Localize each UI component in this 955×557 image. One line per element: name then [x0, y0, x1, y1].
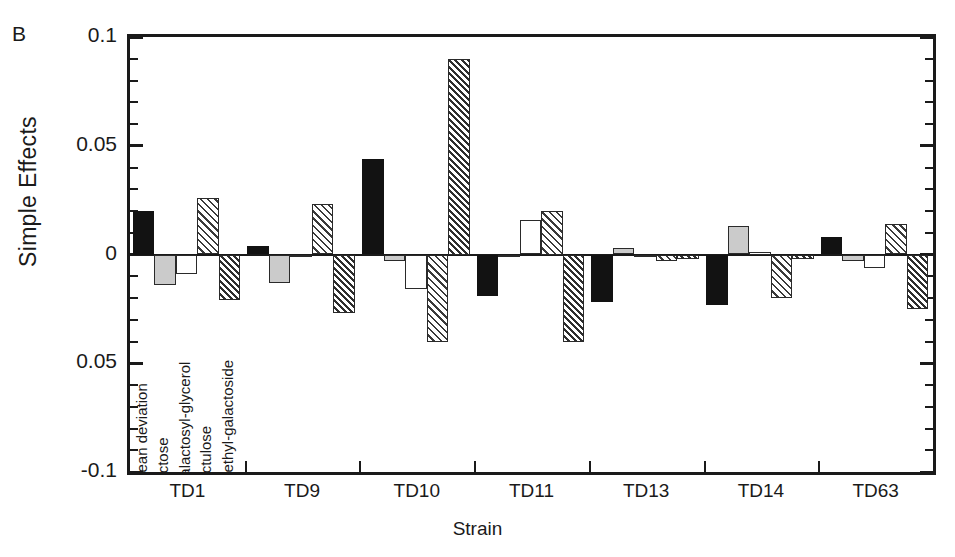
legend-label-mean-deviation: mean deviation — [133, 383, 150, 472]
y-tick-right — [925, 406, 933, 408]
y-tick-left — [130, 80, 138, 82]
bar-td11-lactose — [498, 255, 520, 257]
y-tick-left — [130, 297, 138, 299]
bar-td1-methyl-galactoside — [219, 255, 241, 301]
x-tick-label-td11: TD11 — [509, 480, 554, 502]
bar-td13-galactosyl-glycerol — [634, 255, 656, 257]
panel-letter: B — [12, 22, 26, 46]
bar-td11-galactosyl-glycerol — [520, 220, 542, 255]
bar-td1-lactulose — [197, 198, 219, 255]
x-tick-label-td10: TD10 — [394, 480, 440, 502]
bar-td10-galactosyl-glycerol — [405, 255, 427, 290]
bar-td14-galactosyl-glycerol — [749, 252, 771, 254]
y-tick-label: 0.05 — [76, 349, 117, 373]
y-tick-right — [925, 384, 933, 386]
y-tick-label: 0.1 — [88, 23, 117, 47]
bar-td63-lactulose — [885, 224, 907, 254]
y-tick-left — [130, 188, 138, 190]
y-tick-right — [925, 167, 933, 169]
y-tick-left — [130, 319, 138, 321]
y-tick-right — [925, 449, 933, 451]
bar-td63-galactosyl-glycerol — [864, 255, 886, 268]
y-tick-left — [130, 362, 143, 365]
y-tick-left — [130, 101, 138, 103]
chart-root: B Simple Effects mean deviationlactosega… — [0, 0, 955, 557]
bar-td13-methyl-galactoside — [677, 255, 699, 259]
bar-td14-lactulose — [771, 255, 793, 299]
y-tick-right — [920, 37, 933, 39]
legend-label-galactosyl-glycerol: galactosyl-glycerol — [176, 361, 193, 472]
y-tick-right — [925, 232, 933, 234]
x-tick-label-td13: TD13 — [623, 480, 669, 502]
bar-td14-methyl-galactoside — [792, 255, 814, 259]
y-tick-right — [925, 428, 933, 430]
bar-td63-lactose — [842, 255, 864, 262]
x-tick-label-td14: TD14 — [738, 480, 784, 502]
x-tick — [818, 461, 820, 472]
y-tick-left — [130, 167, 138, 169]
bar-td1-mean-deviation — [133, 211, 155, 255]
bar-td10-lactose — [384, 255, 406, 262]
legend-label-lactose: lactose — [154, 437, 171, 472]
y-tick-right — [925, 80, 933, 82]
x-axis-label: Strain — [0, 518, 955, 540]
y-tick-right — [925, 319, 933, 321]
y-tick-left — [130, 123, 138, 125]
x-tick — [704, 461, 706, 472]
x-tick-label-td63: TD63 — [852, 480, 898, 502]
y-tick-left — [130, 58, 138, 60]
y-tick-label: -0.1 — [81, 458, 117, 482]
y-tick-left — [130, 275, 138, 277]
bar-td13-lactose — [613, 248, 635, 255]
x-tick — [359, 461, 361, 472]
bar-td11-mean-deviation — [477, 255, 499, 296]
bar-td9-mean-deviation — [247, 246, 269, 255]
x-tick — [474, 461, 476, 472]
bar-td10-methyl-galactoside — [448, 59, 470, 255]
y-tick-label: 0 — [105, 241, 117, 265]
bar-td10-lactulose — [427, 255, 449, 342]
bar-td1-galactosyl-glycerol — [176, 255, 198, 275]
y-tick-left — [130, 341, 138, 343]
y-tick-right — [925, 58, 933, 60]
bar-td14-lactose — [728, 226, 750, 254]
legend-label-methyl-galactoside: methyl-galactoside — [219, 360, 236, 472]
bar-td1-lactose — [154, 255, 176, 285]
bar-td11-methyl-galactoside — [563, 255, 585, 342]
y-tick-right — [920, 362, 933, 365]
x-tick — [245, 461, 247, 472]
bar-td9-methyl-galactoside — [333, 255, 355, 314]
y-tick-right — [925, 123, 933, 125]
plot-inner: mean deviationlactosegalactosyl-glycerol… — [130, 37, 933, 472]
legend-label-lactulose: lactulose — [197, 425, 214, 472]
y-tick-left — [130, 144, 143, 147]
bar-td11-lactulose — [541, 211, 563, 255]
bar-td9-lactose — [269, 255, 291, 283]
plot-area: mean deviationlactosegalactosyl-glycerol… — [127, 34, 936, 475]
y-tick-right — [920, 144, 933, 147]
y-axis-label: Simple Effects — [15, 72, 42, 312]
bar-td9-galactosyl-glycerol — [290, 255, 312, 257]
bar-td13-lactulose — [656, 255, 678, 262]
bar-td13-mean-deviation — [591, 255, 613, 303]
x-tick — [589, 461, 591, 472]
bar-td63-methyl-galactoside — [907, 255, 929, 309]
x-tick-label-td9: TD9 — [284, 480, 320, 502]
y-tick-right — [925, 341, 933, 343]
y-tick-right — [925, 101, 933, 103]
y-tick-right — [925, 210, 933, 212]
y-tick-left — [130, 37, 143, 39]
bar-td9-lactulose — [312, 204, 334, 254]
y-tick-label: 0.05 — [76, 132, 117, 156]
y-tick-right — [920, 471, 933, 473]
bar-td10-mean-deviation — [362, 159, 384, 255]
y-tick-right — [925, 188, 933, 190]
bar-td63-mean-deviation — [821, 237, 843, 254]
x-tick-label-td1: TD1 — [169, 480, 205, 502]
bar-td14-mean-deviation — [706, 255, 728, 305]
